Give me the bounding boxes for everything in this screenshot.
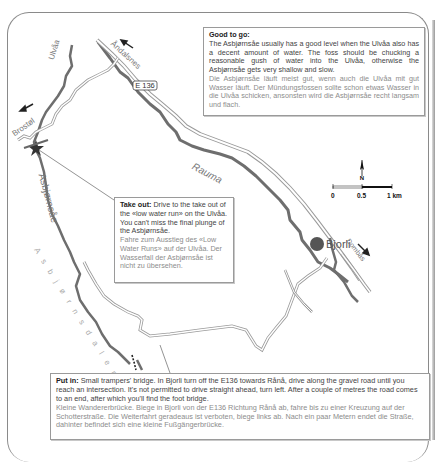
good-to-go-text-en: The Asbjørnsåe usually has a good level …	[209, 40, 419, 75]
put-in-text-en: Small trampers' bridge. In Bjorli turn o…	[56, 376, 418, 403]
scale-tick-0: 0	[331, 192, 335, 199]
take-out-text-de: Fahre zum Ausstieg des «Low Water Runs» …	[120, 236, 228, 271]
ulvaa-river	[34, 45, 72, 152]
arrow-brostol-icon	[20, 104, 33, 111]
e136-label: E 136	[135, 81, 155, 90]
north-arrow-icon	[360, 160, 364, 176]
take-out-box: Take out: Drive to the take out of the «…	[114, 197, 234, 283]
footpath	[132, 355, 136, 370]
scale-bar	[333, 184, 392, 189]
scale-tick-05: 0.5	[357, 192, 366, 199]
good-to-go-box: Good to go: The Asbjørnsåe usually has a…	[203, 27, 425, 116]
good-to-go-text-de: Die Asbjørnsåe läuft meist gut, wenn auc…	[209, 75, 419, 110]
put-in-text-de: Kleine Wandererbrücke. Biege in Bjorli v…	[56, 404, 424, 431]
svg-text:N: N	[360, 175, 364, 181]
bjorli-town-marker	[310, 237, 324, 251]
put-in-box: Put in: Small trampers' bridge. In Bjorl…	[50, 373, 430, 440]
putin-leader	[160, 345, 170, 373]
put-in-heading: Put in:	[56, 376, 81, 385]
scale-tick-1km: 1 km	[387, 192, 402, 199]
take-out-heading: Take out:	[120, 200, 153, 209]
